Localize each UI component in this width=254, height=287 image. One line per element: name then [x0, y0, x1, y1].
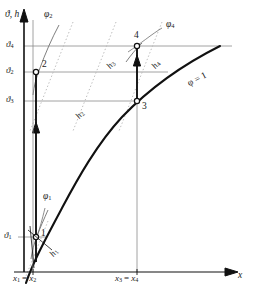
state-point-label-1: 1: [41, 229, 46, 239]
state-point-2-marker: [33, 69, 38, 74]
state-point-label-4: 4: [134, 31, 139, 41]
x-axis-label: x: [238, 271, 242, 281]
process-arrow-1-2: [32, 122, 39, 133]
y-tick-label-theta4: ϑ4: [6, 40, 13, 49]
y-tick-label-theta3: ϑ3: [6, 95, 13, 104]
phi1-label: φ1: [43, 192, 52, 202]
y-tick-label-theta1: ϑ1: [4, 231, 11, 240]
state-point-4-marker: [134, 43, 139, 48]
relative-humidity-curves: [31, 25, 142, 259]
y-axis-arrowhead: [20, 9, 28, 22]
x-tick-label-x1-x2: x1=x2: [13, 274, 36, 283]
process-lines: [32, 46, 140, 262]
phi2-label: φ2: [44, 10, 53, 20]
state-point-3-marker: [134, 98, 139, 103]
psychrometric-diagram: ϑ, h x ϑ4 ϑ2 ϑ3 ϑ1 x1=x2 x3=x4 1 2 3 4 φ…: [0, 0, 254, 287]
x-tick-label-x3-x4: x3=x4: [115, 274, 138, 283]
process-arrow-3-4: [133, 55, 140, 66]
y-axis-label: ϑ, h: [5, 10, 19, 20]
state-point-markers: [33, 43, 139, 239]
x-axis-arrowhead: [225, 268, 238, 276]
state-point-label-3: 3: [142, 102, 147, 112]
leader-lines: [37, 28, 162, 236]
phi4-label: φ4: [166, 20, 175, 30]
y-tick-label-theta2: ϑ2: [6, 66, 13, 75]
diagram-canvas: [0, 0, 254, 287]
state-point-label-2: 2: [42, 60, 47, 70]
